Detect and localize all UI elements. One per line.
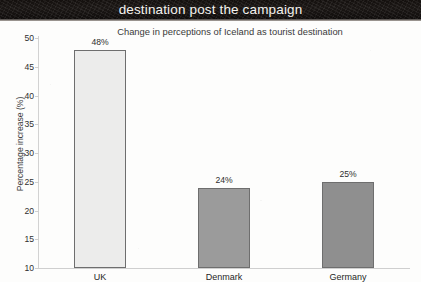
y-axis-tick-mark [35, 153, 39, 154]
bar-germany [322, 182, 374, 268]
y-axis-tick-mark [35, 182, 39, 183]
bar-uk [74, 50, 126, 269]
y-axis-tick-label: 30 [0, 148, 34, 158]
y-axis-tick-mark [35, 124, 39, 125]
y-axis-tick-label: 50 [0, 33, 34, 43]
y-axis-tick-label: 40 [0, 91, 34, 101]
y-axis-tick-mark [35, 96, 39, 97]
y-axis-tick-mark [35, 67, 39, 68]
y-axis-tick-mark [35, 211, 39, 212]
y-axis-tick-label: 25 [0, 177, 34, 187]
banner-title: destination post the campaign [0, 0, 421, 19]
bar-value-label: 24% [215, 175, 232, 185]
x-axis-line [38, 268, 410, 269]
bar-denmark [198, 188, 250, 269]
y-axis-tick-mark [35, 268, 39, 269]
x-axis-category-label: Denmark [206, 272, 243, 282]
y-axis-tick-label: 10 [0, 263, 34, 273]
chart-screenshot: destination post the campaign Change in … [0, 0, 421, 282]
bar-value-label: 25% [339, 169, 356, 179]
bar-value-label: 48% [91, 37, 108, 47]
y-axis-tick-label: 15 [0, 234, 34, 244]
x-axis-category-label: UK [94, 272, 107, 282]
y-axis-tick-label: 45 [0, 62, 34, 72]
y-axis-tick-label: 35 [0, 119, 34, 129]
page-banner: destination post the campaign [0, 0, 421, 19]
chart-title: Change in perceptions of Iceland as tour… [60, 26, 400, 37]
chart-canvas: Change in perceptions of Iceland as tour… [0, 21, 421, 282]
y-axis-tick-mark [35, 38, 39, 39]
y-axis-tick-label: 20 [0, 206, 34, 216]
y-axis-tick-mark [35, 239, 39, 240]
x-axis-category-label: Germany [329, 272, 366, 282]
